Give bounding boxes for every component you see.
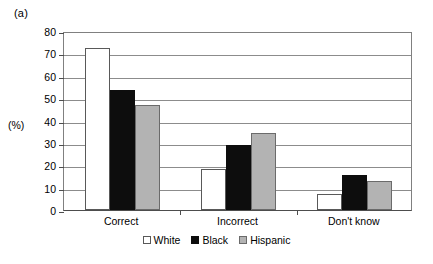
gridline: [64, 78, 411, 79]
x-axis-label-incorrect: Incorrect: [188, 215, 288, 227]
legend-item-hispanic: Hispanic: [239, 234, 290, 246]
y-axis-tick-mark: [59, 78, 64, 79]
y-axis-tick-mark: [59, 167, 64, 168]
y-axis-tick-label: 0: [32, 206, 56, 217]
bar-incorrect-black: [226, 145, 251, 210]
y-axis-tick-mark: [59, 55, 64, 56]
legend-swatch-white: [143, 236, 151, 244]
x-axis-label-correct: Correct: [71, 215, 171, 227]
y-axis-tick-mark: [59, 123, 64, 124]
x-axis-tick-mark: [297, 210, 298, 215]
bar-incorrect-hispanic: [251, 133, 276, 210]
plot-area: 01020304050607080: [63, 32, 412, 211]
y-axis-tick-label: 70: [32, 49, 56, 60]
y-axis-tick-label: 60: [32, 72, 56, 83]
y-axis-tick-label: 40: [32, 117, 56, 128]
bar-correct-hispanic: [135, 105, 160, 210]
bar-chart-figure: (a) (%) 01020304050607080 CorrectIncorre…: [0, 0, 433, 264]
legend-label-hispanic: Hispanic: [250, 234, 290, 246]
y-axis-tick-label: 50: [32, 94, 56, 105]
bar-incorrect-white: [201, 169, 226, 210]
x-axis-label-don-t-know: Don't know: [304, 215, 404, 227]
y-axis-tick-mark: [59, 100, 64, 101]
x-axis-tick-mark: [180, 210, 181, 215]
legend-item-black: Black: [191, 234, 228, 246]
panel-label: (a): [14, 7, 28, 19]
legend-label-black: Black: [202, 234, 228, 246]
y-axis-tick-mark: [59, 190, 64, 191]
y-axis-tick-label: 80: [32, 27, 56, 38]
bar-don-t-know-black: [342, 175, 367, 210]
bar-correct-black: [110, 90, 135, 210]
legend-swatch-black: [191, 236, 199, 244]
y-axis-unit-label: (%): [8, 119, 24, 131]
bar-don-t-know-white: [317, 194, 342, 210]
y-axis-tick-mark: [59, 33, 64, 34]
y-axis-tick-label: 10: [32, 184, 56, 195]
gridline: [64, 55, 411, 56]
legend-swatch-hispanic: [239, 236, 247, 244]
legend-label-white: White: [154, 234, 181, 246]
bar-correct-white: [85, 48, 110, 210]
legend-item-white: White: [143, 234, 181, 246]
y-axis-tick-mark: [59, 145, 64, 146]
chart-legend: WhiteBlackHispanic: [0, 234, 433, 246]
y-axis-tick-label: 30: [32, 139, 56, 150]
y-axis-tick-mark: [59, 212, 64, 213]
bar-don-t-know-hispanic: [367, 181, 392, 210]
y-axis-tick-label: 20: [32, 161, 56, 172]
